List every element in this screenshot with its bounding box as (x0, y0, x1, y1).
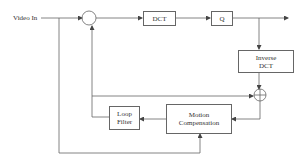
quantizer-block: Q (211, 11, 233, 26)
inverse-dct-label-line2: DCT (259, 62, 273, 70)
loop-filter-label-line1: Loop (117, 110, 132, 118)
dct-label: DCT (153, 15, 167, 23)
subtractor-node (82, 11, 96, 25)
motion-comp-label-line1: Motion (189, 111, 210, 119)
video-in-label: Video In (13, 14, 37, 22)
motion-comp-label-line2: Compensation (179, 119, 219, 127)
quantizer-label: Q (219, 15, 224, 23)
loop-filter-block: Loop Filter (109, 106, 140, 130)
motion-compensation-block: Motion Compensation (166, 104, 232, 134)
dct-block: DCT (143, 11, 176, 26)
inverse-dct-block: Inverse DCT (238, 50, 294, 73)
loop-filter-label-line2: Filter (117, 118, 132, 126)
inverse-dct-label-line1: Inverse (256, 54, 277, 62)
